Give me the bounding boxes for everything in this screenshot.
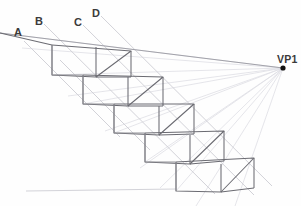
- stringer-left-edge: [52, 45, 176, 191]
- measuring-line-b: [44, 24, 215, 194]
- step: [114, 104, 194, 135]
- step-tread-back: [159, 134, 194, 135]
- label-a: A: [14, 26, 22, 38]
- vp-ray: [68, 68, 283, 96]
- step-riser: [52, 45, 96, 77]
- measuring-line-c: [83, 25, 254, 195]
- vp-ray: [196, 68, 283, 206]
- vp-ray: [22, 48, 283, 68]
- vanishing-point-dot: [280, 65, 285, 70]
- vp-ray: [114, 68, 283, 133]
- step: [83, 75, 163, 106]
- label-c: C: [74, 16, 82, 28]
- step: [176, 158, 254, 192]
- measuring-line-extra: [24, 41, 120, 137]
- step-tread: [176, 158, 254, 192]
- measuring-line-d: [101, 16, 272, 186]
- horizon-line: [0, 33, 283, 68]
- step-tread: [114, 104, 194, 135]
- label-vp1: VP1: [277, 53, 297, 65]
- label-d: D: [92, 7, 100, 19]
- drawing-canvas: [0, 0, 301, 206]
- stair-stringer: [52, 45, 176, 191]
- ground-line: [26, 189, 176, 191]
- vp-ray: [235, 68, 283, 206]
- step-tread: [83, 75, 163, 106]
- label-b: B: [35, 15, 43, 27]
- perspective-drawing: A B C D VP1: [0, 0, 301, 206]
